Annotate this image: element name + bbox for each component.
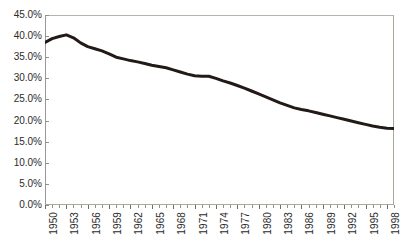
y-axis-tick-mark	[45, 78, 49, 79]
x-axis-tick-mark	[130, 205, 131, 209]
x-axis-tick-mark	[259, 205, 260, 209]
x-axis-tick-mark	[95, 205, 96, 208]
x-axis-tick-mark	[45, 205, 46, 209]
x-axis-tick-mark	[145, 205, 146, 208]
y-axis-tick-label: 15.0%	[2, 137, 42, 147]
x-axis-tick-mark	[337, 205, 338, 208]
x-axis-tick-label: 1962	[134, 212, 144, 235]
x-axis-tick-mark	[358, 205, 359, 208]
y-axis-tick-mark	[45, 36, 49, 37]
x-axis-tick-mark	[366, 205, 367, 209]
x-axis-tick-label: 1974	[220, 212, 230, 235]
x-axis-tick-label: 1980	[263, 212, 273, 235]
x-axis-tick-mark	[301, 205, 302, 209]
x-axis-tick-label: 1989	[327, 212, 337, 235]
y-axis-tick-label: 30.0%	[2, 73, 42, 83]
x-axis-tick-mark	[166, 205, 167, 208]
x-axis-tick-mark	[173, 205, 174, 209]
x-axis-tick-mark	[159, 205, 160, 208]
x-axis-tick-label: 1995	[370, 212, 380, 235]
x-axis-tick-label: 1992	[348, 212, 358, 235]
x-axis-tick-mark	[244, 205, 245, 208]
x-axis-tick-label: 1983	[284, 212, 294, 235]
x-axis-tick-label: 1968	[177, 212, 187, 235]
y-axis-tick-label: 20.0%	[2, 116, 42, 126]
x-axis-tick-mark	[109, 205, 110, 209]
x-axis-tick-mark	[380, 205, 381, 208]
x-axis-tick-label: 1959	[113, 212, 123, 235]
x-axis-tick-mark	[230, 205, 231, 208]
x-axis-tick-label: 1971	[199, 212, 209, 235]
x-axis-tick-mark	[309, 205, 310, 208]
x-axis-tick-mark	[330, 205, 331, 208]
y-axis-tick-label: 0.0%	[2, 200, 42, 210]
y-axis-tick-label: 35.0%	[2, 52, 42, 62]
x-axis-tick-mark	[323, 205, 324, 209]
x-axis-tick-mark	[351, 205, 352, 208]
data-series-line	[45, 15, 394, 205]
y-axis-tick-mark	[45, 121, 49, 122]
y-axis-tick-mark	[45, 15, 49, 16]
x-axis-tick-mark	[187, 205, 188, 208]
y-axis-tick-label: 40.0%	[2, 31, 42, 41]
y-axis-tick-label: 45.0%	[2, 10, 42, 20]
x-axis-tick-mark	[223, 205, 224, 208]
x-axis-tick-mark	[81, 205, 82, 208]
x-axis-tick-mark	[316, 205, 317, 208]
x-axis-tick-mark	[102, 205, 103, 208]
x-axis-tick-mark	[294, 205, 295, 208]
x-axis-tick-mark	[116, 205, 117, 208]
x-axis-tick-mark	[202, 205, 203, 208]
plot-area	[45, 15, 394, 205]
x-axis-tick-mark	[138, 205, 139, 208]
x-axis-tick-mark	[344, 205, 345, 209]
series-polyline	[45, 35, 394, 129]
chart-container: 45.0%40.0%35.0%30.0%25.0%20.0%15.0%10.0%…	[0, 0, 420, 244]
x-axis-tick-mark	[252, 205, 253, 208]
x-axis-tick-mark	[73, 205, 74, 208]
x-axis-tick-mark	[237, 205, 238, 209]
x-axis-tick-label: 1965	[156, 212, 166, 235]
x-axis-tick-label: 1998	[391, 212, 401, 235]
y-axis-tick-mark	[45, 142, 49, 143]
x-axis-tick-mark	[195, 205, 196, 209]
y-axis-tick-label: 5.0%	[2, 179, 42, 189]
x-axis-tick-label: 1977	[241, 212, 251, 235]
y-axis-label-group: 45.0%40.0%35.0%30.0%25.0%20.0%15.0%10.0%…	[0, 0, 42, 244]
x-axis-tick-mark	[180, 205, 181, 208]
y-axis-tick-label: 25.0%	[2, 94, 42, 104]
x-axis-tick-mark	[280, 205, 281, 209]
chart-title-fragment	[0, 0, 420, 7]
y-axis-tick-mark	[45, 184, 49, 185]
x-axis-tick-mark	[152, 205, 153, 209]
x-axis-tick-mark	[52, 205, 53, 208]
y-axis-tick-label: 10.0%	[2, 158, 42, 168]
y-axis-tick-mark	[45, 99, 49, 100]
x-axis-tick-mark	[123, 205, 124, 208]
x-axis-tick-label: 1950	[49, 212, 59, 235]
x-axis-tick-mark	[387, 205, 388, 209]
x-axis-tick-mark	[373, 205, 374, 208]
x-axis-tick-mark	[88, 205, 89, 209]
y-axis-tick-mark	[45, 57, 49, 58]
x-axis-tick-mark	[209, 205, 210, 208]
x-axis-tick-mark	[394, 205, 395, 208]
x-axis-tick-mark	[216, 205, 217, 209]
x-axis-tick-label: 1953	[70, 212, 80, 235]
x-axis-tick-label: 1956	[92, 212, 102, 235]
x-axis-tick-mark	[273, 205, 274, 208]
x-axis-tick-mark	[266, 205, 267, 208]
x-axis-tick-mark	[287, 205, 288, 208]
y-axis-tick-mark	[45, 163, 49, 164]
x-axis-tick-mark	[59, 205, 60, 208]
x-axis-tick-label: 1986	[305, 212, 315, 235]
x-axis-tick-mark	[66, 205, 67, 209]
